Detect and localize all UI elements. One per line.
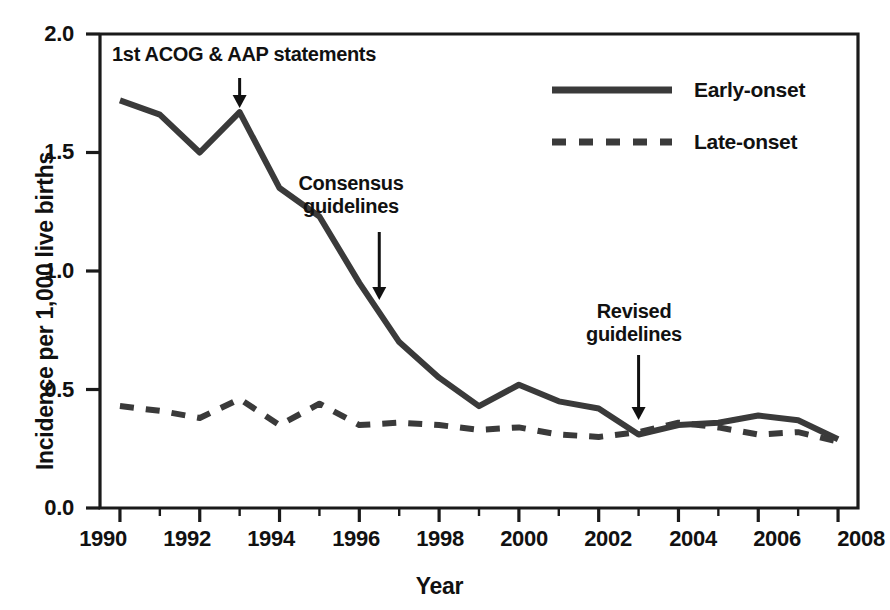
x-tick-label-2004: 2004	[657, 528, 729, 550]
legend-label-late-onset: Late-onset	[694, 131, 797, 152]
x-tick-label-1990: 1990	[67, 528, 139, 550]
x-axis-title: Year	[0, 575, 879, 598]
annotation-consensus-line1: Consensus	[262, 173, 440, 193]
figure-caption	[6, 597, 874, 610]
annotation-consensus-guidelines: Consensus guidelines	[262, 173, 440, 216]
x-tick-label-1996: 1996	[320, 528, 392, 550]
x-axis-ticks	[120, 508, 838, 522]
annotation-arrow-head	[372, 287, 386, 300]
y-axis-ticks	[86, 34, 100, 508]
x-tick-label-2002: 2002	[572, 528, 644, 550]
x-tick-label-1994: 1994	[235, 528, 307, 550]
legend-swatches	[552, 90, 672, 142]
annotation-arrows	[233, 78, 646, 420]
x-tick-label-1998: 1998	[404, 528, 476, 550]
y-tick-label-2-0: 2.0	[22, 23, 74, 45]
annotation-revised-line2: guidelines	[545, 324, 723, 344]
x-tick-label-2006: 2006	[741, 528, 813, 550]
plot-border	[100, 34, 858, 508]
x-tick-label-1992: 1992	[151, 528, 223, 550]
y-axis-title: Incidence per 1,000 live births	[34, 152, 57, 470]
annotation-acog-aap: 1st ACOG & AAP statements	[112, 44, 356, 64]
x-tick-label-2000: 2000	[488, 528, 560, 550]
annotation-revised-line1: Revised	[545, 301, 723, 321]
x-tick-label-2008: 2008	[825, 528, 890, 550]
annotation-consensus-line2: guidelines	[262, 196, 440, 216]
annotation-revised-guidelines: Revised guidelines	[545, 301, 723, 344]
legend-label-early-onset: Early-onset	[694, 79, 805, 100]
annotation-arrow-head	[233, 95, 247, 108]
axis-frame	[100, 34, 858, 508]
annotation-arrow-head	[632, 407, 646, 420]
annotation-acog-aap-line1: 1st ACOG & AAP statements	[112, 43, 376, 65]
y-tick-label-0-0: 0.0	[22, 497, 74, 519]
